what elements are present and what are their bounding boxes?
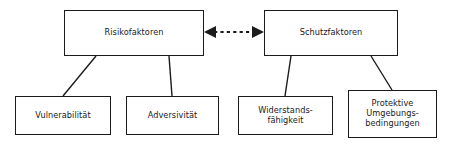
node-risikofaktoren: Risikofaktoren	[64, 10, 204, 56]
node-protektive-umgebungsbedingungen: Protektive Umgebungs- bedingungen	[348, 90, 437, 138]
node-adversivitaet: Adversivität	[126, 96, 219, 135]
connector-schutzfaktoren-widerstandsfaehigkeit	[285, 56, 291, 96]
node-widerstandsfaehigkeit-label: Widerstands- fähigkeit	[255, 106, 316, 125]
node-vulnerabilitaet: Vulnerabilität	[15, 96, 111, 135]
node-schutzfaktoren: Schutzfaktoren	[264, 10, 398, 56]
node-protektive-umgebungsbedingungen-label: Protektive Umgebungs- bedingungen	[362, 99, 422, 128]
node-risikofaktoren-label: Risikofaktoren	[102, 28, 167, 38]
arrowhead-right-icon	[252, 26, 264, 38]
connector-risikofaktoren-adversivitaet	[169, 56, 172, 96]
node-widerstandsfaehigkeit: Widerstands- fähigkeit	[238, 96, 333, 135]
arrowhead-left-icon	[204, 26, 216, 38]
node-adversivitaet-label: Adversivität	[145, 111, 201, 121]
node-vulnerabilitaet-label: Vulnerabilität	[32, 111, 93, 121]
risk-protective-factors-diagram: Risikofaktoren Schutzfaktoren Vulnerabil…	[0, 0, 449, 147]
node-schutzfaktoren-label: Schutzfaktoren	[297, 28, 366, 38]
connector-risikofaktoren-vulnerabilitaet	[63, 56, 96, 96]
connector-risikofaktoren-schutzfaktoren-bidirectional	[204, 26, 264, 38]
connector-schutzfaktoren-protektive	[371, 56, 392, 90]
